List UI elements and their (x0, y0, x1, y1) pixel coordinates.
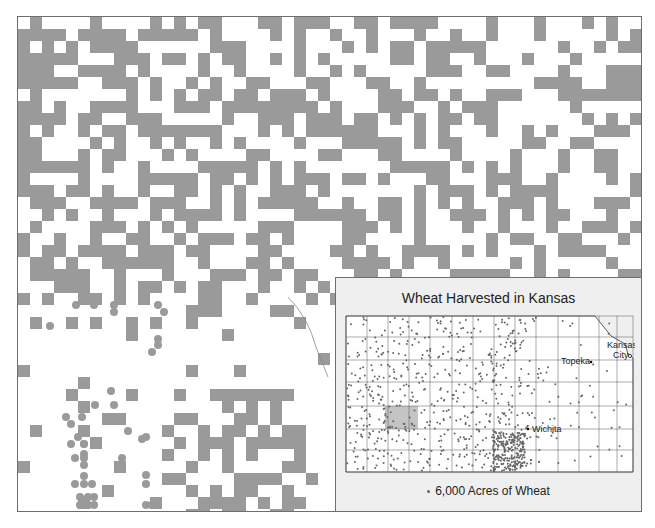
city-topeka: Topeka (561, 356, 592, 366)
city-marker-icon (527, 428, 530, 431)
legend-label: 6,000 Acres of Wheat (435, 484, 550, 498)
city-wichita: Wichita (527, 424, 562, 434)
city-label-kansas: Kansas (607, 340, 635, 350)
kansas-county-map: Topeka Kansas City Wichita (345, 314, 635, 474)
city-marker-icon (590, 361, 593, 364)
kansas-inset-map: Wheat Harvested in Kansas Topeka Kansas … (335, 277, 642, 512)
inset-title: Wheat Harvested in Kansas (336, 290, 641, 306)
city-marker-icon (628, 354, 631, 357)
city-label-topeka: Topeka (561, 356, 590, 366)
legend: 6,000 Acres of Wheat (336, 484, 641, 498)
city-label-city: City (613, 350, 629, 360)
legend-dot-icon (427, 490, 430, 493)
city-label-wichita: Wichita (532, 424, 562, 434)
